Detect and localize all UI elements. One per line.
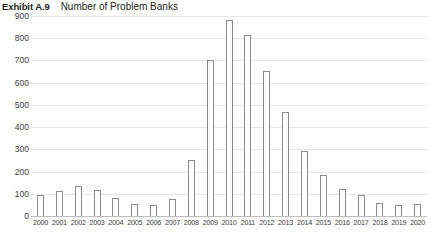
bar-2016: [339, 189, 346, 216]
bar-2017: [358, 195, 365, 216]
x-tick-label: 2012: [257, 218, 276, 232]
x-tick-label: 2014: [295, 218, 314, 232]
bar-2012: [263, 71, 270, 216]
x-tick-label: 2009: [201, 218, 220, 232]
x-tick-label: 2019: [389, 218, 408, 232]
y-tick-label: 600: [0, 79, 29, 87]
bar-slot: [182, 16, 201, 216]
x-tick-label: 2015: [314, 218, 333, 232]
axis-baseline: [31, 216, 427, 217]
x-tick-label: 2007: [163, 218, 182, 232]
x-tick-label: 2017: [352, 218, 371, 232]
bar-slot: [88, 16, 107, 216]
bar-slot: [220, 16, 239, 216]
bar-slot: [295, 16, 314, 216]
y-axis: 9008007006005004003002001000: [0, 16, 29, 216]
plot-area: [31, 16, 427, 216]
bar-2005: [131, 204, 138, 216]
bar-slot: [106, 16, 125, 216]
x-tick-label: 2006: [144, 218, 163, 232]
bar-2000: [37, 195, 44, 216]
x-tick-label: 2000: [31, 218, 50, 232]
x-tick-label: 2001: [50, 218, 69, 232]
page-title: Number of Problem Banks: [50, 1, 178, 12]
y-tick-label: 500: [0, 101, 29, 109]
bar-2014: [301, 151, 308, 216]
x-tick-label: 2018: [370, 218, 389, 232]
x-axis: 2000200120022003200420052006200720082009…: [31, 218, 427, 232]
y-tick-label: 0: [0, 212, 29, 220]
y-tick-label: 900: [0, 12, 29, 20]
bar-slot: [408, 16, 427, 216]
bar-slot: [257, 16, 276, 216]
y-tick-label: 100: [0, 190, 29, 198]
bar-2010: [226, 20, 233, 216]
bar-series: [31, 16, 427, 216]
y-tick-label: 200: [0, 168, 29, 176]
bar-slot: [31, 16, 50, 216]
bar-2018: [376, 203, 383, 216]
bar-2001: [56, 191, 63, 216]
y-tick-label: 300: [0, 145, 29, 153]
x-tick-label: 2008: [182, 218, 201, 232]
bar-slot: [276, 16, 295, 216]
bar-slot: [163, 16, 182, 216]
bar-slot: [69, 16, 88, 216]
x-tick-label: 2011: [238, 218, 257, 232]
bar-slot: [389, 16, 408, 216]
bar-slot: [370, 16, 389, 216]
bar-2011: [244, 35, 251, 216]
x-tick-label: 2013: [276, 218, 295, 232]
x-tick-label: 2004: [106, 218, 125, 232]
bar-slot: [144, 16, 163, 216]
x-tick-label: 2020: [408, 218, 427, 232]
bar-2020: [414, 204, 421, 216]
y-tick-label: 400: [0, 123, 29, 131]
bar-slot: [333, 16, 352, 216]
bar-slot: [314, 16, 333, 216]
bar-slot: [201, 16, 220, 216]
bar-2004: [112, 198, 119, 216]
bar-slot: [352, 16, 371, 216]
x-tick-label: 2010: [220, 218, 239, 232]
x-tick-label: 2003: [88, 218, 107, 232]
x-tick-label: 2005: [125, 218, 144, 232]
bar-2013: [282, 112, 289, 216]
bar-2008: [188, 160, 195, 216]
chart-page: Exhibit A.9Number of Problem Banks 90080…: [0, 0, 431, 239]
chart-header: Exhibit A.9Number of Problem Banks: [0, 0, 431, 12]
x-tick-label: 2002: [69, 218, 88, 232]
x-tick-label: 2016: [333, 218, 352, 232]
y-tick-label: 800: [0, 34, 29, 42]
bar-slot: [50, 16, 69, 216]
bar-2015: [320, 175, 327, 216]
bar-2002: [75, 186, 82, 216]
bar-2009: [207, 60, 214, 216]
bar-2019: [395, 205, 402, 216]
bar-slot: [238, 16, 257, 216]
bar-2003: [94, 190, 101, 216]
y-tick-label: 700: [0, 56, 29, 64]
bar-slot: [125, 16, 144, 216]
bar-2007: [169, 199, 176, 216]
bar-2006: [150, 205, 157, 216]
